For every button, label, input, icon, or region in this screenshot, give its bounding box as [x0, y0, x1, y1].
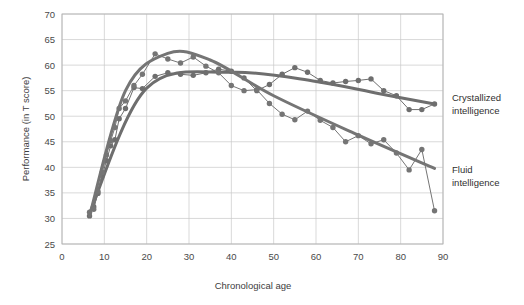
data-point	[191, 54, 196, 59]
data-point	[292, 117, 297, 122]
data-point	[330, 80, 335, 85]
data-point	[406, 107, 411, 112]
data-point	[356, 133, 361, 138]
x-tick-label: 30	[184, 251, 195, 262]
series-label-fluid-line2: intelligence	[452, 177, 500, 188]
data-point	[131, 83, 136, 88]
data-point	[203, 63, 208, 68]
data-point	[152, 74, 157, 79]
data-point	[267, 101, 272, 106]
data-point	[140, 72, 145, 77]
data-point	[104, 152, 109, 157]
data-point	[112, 125, 117, 130]
data-point	[267, 82, 272, 87]
data-point	[343, 79, 348, 84]
data-point	[165, 56, 170, 61]
data-point	[394, 150, 399, 155]
data-point	[279, 111, 284, 116]
data-point	[343, 139, 348, 144]
data-point	[305, 108, 310, 113]
y-tick-label: 30	[44, 213, 55, 224]
data-point	[419, 107, 424, 112]
data-point	[123, 98, 128, 103]
data-point	[203, 70, 208, 75]
data-point	[100, 170, 105, 175]
y-tick-label: 60	[44, 60, 55, 71]
data-point	[95, 189, 100, 194]
data-point	[368, 76, 373, 81]
y-tick-label: 65	[44, 34, 55, 45]
x-tick-label: 50	[268, 251, 279, 262]
series-label-crystallized-line1: Crystallized	[452, 92, 501, 103]
data-point	[178, 60, 183, 65]
y-tick-label: 35	[44, 187, 55, 198]
data-point	[419, 147, 424, 152]
data-point	[368, 141, 373, 146]
data-point	[381, 137, 386, 142]
data-point	[432, 101, 437, 106]
series-label-fluid-line1: Fluid	[452, 164, 473, 175]
data-point	[165, 70, 170, 75]
x-tick-label: 90	[438, 251, 449, 262]
y-tick-label: 45	[44, 136, 55, 147]
data-point	[241, 88, 246, 93]
y-tick-label: 25	[44, 239, 55, 250]
data-point	[432, 208, 437, 213]
x-tick-label: 20	[141, 251, 152, 262]
y-tick-label: 40	[44, 162, 55, 173]
data-point	[123, 106, 128, 111]
y-tick-label: 55	[44, 85, 55, 96]
data-point	[152, 51, 157, 56]
data-point	[279, 72, 284, 77]
data-point	[191, 73, 196, 78]
x-tick-label: 60	[311, 251, 322, 262]
series-label-crystallized-line2: intelligence	[452, 105, 500, 116]
x-tick-label: 80	[395, 251, 406, 262]
x-tick-label: 40	[226, 251, 237, 262]
data-point	[216, 70, 221, 75]
data-point	[305, 70, 310, 75]
x-tick-label: 70	[353, 251, 364, 262]
y-tick-label: 70	[44, 9, 55, 20]
data-point	[254, 87, 259, 92]
data-point	[318, 78, 323, 83]
data-point	[178, 72, 183, 77]
x-tick-label: 10	[99, 251, 110, 262]
data-point	[406, 167, 411, 172]
data-point	[356, 78, 361, 83]
data-point	[116, 106, 121, 111]
data-point	[229, 83, 234, 88]
x-axis-title: Chronological age	[215, 280, 292, 291]
data-point	[394, 93, 399, 98]
data-point	[330, 125, 335, 130]
data-point	[140, 86, 145, 91]
data-point	[292, 65, 297, 70]
data-point	[381, 88, 386, 93]
data-point	[318, 118, 323, 123]
x-tick-label: 0	[59, 251, 64, 262]
data-point	[91, 207, 96, 212]
data-point	[108, 138, 113, 143]
y-axis-title: Performance (in T score)	[20, 77, 31, 182]
y-tick-label: 50	[44, 111, 55, 122]
chart-figure: 25303540455055606570 0102030405060708090…	[0, 0, 524, 305]
